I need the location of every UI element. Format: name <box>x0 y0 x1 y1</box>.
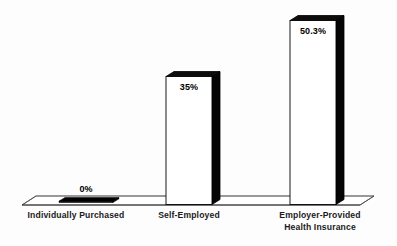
value-label-self-employed: 35% <box>159 83 219 92</box>
bar-1-top-face <box>59 198 119 202</box>
bar-2-top-face <box>166 72 220 77</box>
bar-individually-purchased[interactable] <box>59 198 119 203</box>
category-label-employer-provided: Employer-Provided Health Insurance <box>250 210 390 233</box>
bar-3-front-face <box>290 21 336 205</box>
bar-2-front-face <box>166 77 212 205</box>
bar-employer-provided[interactable] <box>290 16 344 205</box>
bar-1-front-face <box>59 201 113 202</box>
value-label-employer-provided: 50.3% <box>283 27 343 36</box>
category-label-1-line-1: Individually Purchased <box>28 210 125 220</box>
bar-chart: 0% 35% 50.3% Individually Purchased Self… <box>0 0 397 246</box>
category-label-3-line-2: Health Insurance <box>250 222 390 234</box>
bar-3-side-face <box>336 16 344 205</box>
category-label-2-line-1: Self-Employed <box>158 210 220 220</box>
category-label-self-employed: Self-Employed <box>139 210 239 222</box>
category-label-individually-purchased: Individually Purchased <box>6 210 146 222</box>
category-label-3-line-1: Employer-Provided <box>279 210 360 220</box>
bar-3-top-face <box>290 16 344 21</box>
value-label-individually-purchased: 0% <box>56 185 116 194</box>
